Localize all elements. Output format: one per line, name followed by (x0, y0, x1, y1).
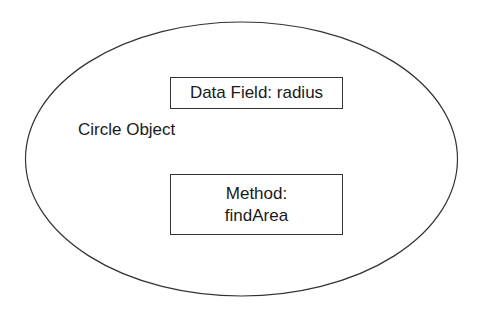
data-field-label: Data Field: radius (190, 82, 323, 104)
method-label-line2: findArea (225, 205, 288, 227)
data-field-box: Data Field: radius (170, 77, 343, 109)
method-label-line1: Method: (226, 183, 287, 205)
object-ellipse (0, 0, 482, 309)
method-box: Method: findArea (170, 174, 343, 235)
object-label: Circle Object (78, 120, 175, 140)
